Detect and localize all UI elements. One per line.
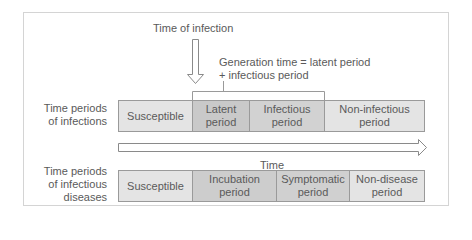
row-label-line: Time periods — [17, 102, 107, 115]
cell-susceptible: Susceptible — [119, 101, 193, 131]
cell-text: Incubation — [209, 173, 260, 186]
infection-down-arrow-icon — [188, 40, 204, 84]
cell-infectious-period: Infectiousperiod — [250, 101, 325, 131]
cell-text: Susceptible — [127, 180, 184, 193]
cell-text: Susceptible — [127, 110, 184, 123]
cell-text: period — [281, 186, 345, 199]
cell-latent-period: Latentperiod — [193, 101, 250, 131]
disease-periods-row: Susceptible Incubationperiod Symptomatic… — [118, 170, 425, 202]
cell-text: Infectious — [263, 103, 310, 116]
row-label-infections: Time periods of infections — [17, 102, 107, 128]
cell-text: period — [206, 116, 237, 129]
time-of-infection-label: Time of infection — [153, 22, 233, 35]
cell-non-infectious-period: Non-infectiousperiod — [325, 101, 424, 131]
cell-text: period — [356, 186, 418, 199]
cell-text: Non-infectious — [339, 103, 409, 116]
row-label-line: Time periods — [17, 165, 107, 178]
cell-text: period — [209, 186, 260, 199]
cell-text: period — [263, 116, 310, 129]
generation-time-note-line1: Generation time = latent period — [219, 56, 370, 69]
cell-text: period — [339, 116, 409, 129]
row-label-line: of infectious — [17, 178, 107, 191]
cell-symptomatic-period: Symptomaticperiod — [277, 171, 350, 201]
time-arrow-icon — [119, 140, 427, 156]
cell-non-disease-period: Non-diseaseperiod — [350, 171, 424, 201]
infection-periods-row: Susceptible Latentperiod Infectiousperio… — [118, 100, 425, 132]
generation-time-note-line2: + infectious period — [219, 69, 309, 82]
row-label-infectious-diseases: Time periods of infectious diseases — [17, 165, 107, 204]
cell-text: Non-disease — [356, 173, 418, 186]
generation-time-bracket — [193, 81, 325, 100]
cell-text: Latent — [206, 103, 237, 116]
row-label-line: of infections — [17, 115, 107, 128]
cell-text: Symptomatic — [281, 173, 345, 186]
row-label-line: diseases — [17, 191, 107, 204]
cell-incubation-period: Incubationperiod — [193, 171, 277, 201]
cell-susceptible: Susceptible — [119, 171, 193, 201]
